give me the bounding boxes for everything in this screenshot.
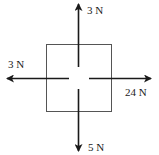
label-left: 3 N <box>8 58 24 70</box>
label-down: 5 N <box>88 141 104 153</box>
label-up: 3 N <box>87 4 103 16</box>
free-body-diagram: 3 N 3 N 24 N 5 N <box>0 0 159 155</box>
label-right: 24 N <box>125 86 147 98</box>
